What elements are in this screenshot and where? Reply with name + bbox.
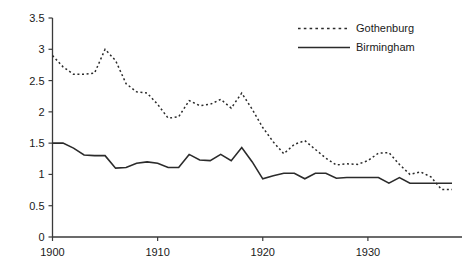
y-tick-label: 1 xyxy=(38,168,44,180)
x-tick-label: 1900 xyxy=(40,246,64,258)
y-tick-label: 2 xyxy=(38,106,44,118)
legend: Gothenburg Birmingham xyxy=(298,22,415,53)
series-line-gothenburg xyxy=(53,49,453,189)
y-tick-label: 0 xyxy=(38,231,44,243)
x-tick-label: 1930 xyxy=(356,246,380,258)
y-tick-label: 2.5 xyxy=(29,75,44,87)
x-tick-labels: 1900191019201930 xyxy=(40,246,380,258)
data-series-group xyxy=(53,49,453,189)
y-axis xyxy=(49,18,53,237)
series-line-birmingham xyxy=(53,143,453,183)
legend-label-birmingham: Birmingham xyxy=(356,41,415,53)
x-tick-label: 1910 xyxy=(145,246,169,258)
x-axis xyxy=(53,237,463,241)
y-tick-label: 3.5 xyxy=(29,12,44,24)
x-tick-label: 1920 xyxy=(251,246,275,258)
y-tick-label: 0.5 xyxy=(29,200,44,212)
legend-label-gothenburg: Gothenburg xyxy=(356,22,414,34)
y-tick-labels: 00.511.522.533.5 xyxy=(29,12,44,243)
y-tick-label: 3 xyxy=(38,43,44,55)
chart-plot-area: 00.511.522.533.5 1900191019201930 Gothen… xyxy=(0,0,471,276)
line-chart: 00.511.522.533.5 1900191019201930 Gothen… xyxy=(0,0,471,276)
y-tick-label: 1.5 xyxy=(29,137,44,149)
